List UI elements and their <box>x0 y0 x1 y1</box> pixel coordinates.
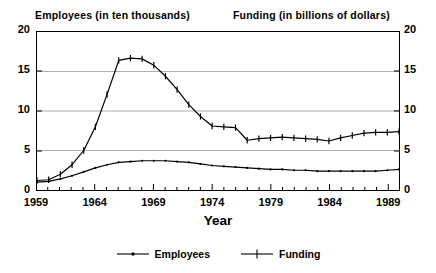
chart-figure: Employees (in ten thousands) Funding (in… <box>0 0 436 273</box>
chart-legend: Employees Funding <box>0 248 436 260</box>
legend-label-employees: Employees <box>155 248 210 260</box>
y-axis-left-tick-10: 10 <box>4 103 30 115</box>
x-axis-tick-1979: 1979 <box>259 196 283 208</box>
y-axis-right-tick-10: 10 <box>404 103 430 115</box>
legend-label-funding: Funding <box>279 248 320 260</box>
left-axis-header: Employees (in ten thousands) <box>35 9 190 21</box>
y-axis-right-tick-20: 20 <box>404 23 430 35</box>
x-axis-title: Year <box>0 213 436 228</box>
legend-item-employees: Employees <box>116 248 210 260</box>
y-axis-right-tick-15: 15 <box>404 63 430 75</box>
y-axis-left-tick-15: 15 <box>4 63 30 75</box>
tick-marks-layer <box>36 31 400 191</box>
legend-marker-dot-icon <box>116 248 150 260</box>
x-axis-tick-1974: 1974 <box>200 196 224 208</box>
legend-item-funding: Funding <box>240 248 320 260</box>
x-axis-tick-1984: 1984 <box>317 196 341 208</box>
y-axis-left-tick-5: 5 <box>4 143 30 155</box>
x-axis-tick-1964: 1964 <box>82 196 106 208</box>
y-axis-right-tick-0: 0 <box>404 183 430 195</box>
y-axis-left-tick-0: 0 <box>4 183 30 195</box>
x-axis-tick-1959: 1959 <box>24 196 48 208</box>
y-axis-left-tick-20: 20 <box>4 23 30 35</box>
x-axis-tick-1969: 1969 <box>141 196 165 208</box>
x-axis-tick-1989: 1989 <box>376 196 400 208</box>
legend-marker-plus-icon <box>240 248 274 260</box>
y-axis-right-tick-5: 5 <box>404 143 430 155</box>
right-axis-header: Funding (in billions of dollars) <box>233 9 390 21</box>
